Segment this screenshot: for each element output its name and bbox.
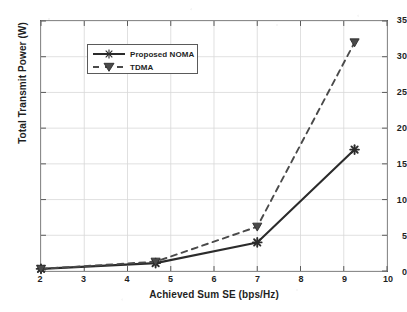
data-point-marker (350, 145, 359, 154)
y-tick-label-35: 35 (373, 15, 407, 25)
y-axis-title: Total Transmit Power (W) (17, 3, 28, 163)
y-tick-label-0: 0 (373, 267, 407, 277)
x-tick-label-3: 3 (81, 274, 86, 284)
y-tick-label-15: 15 (373, 159, 407, 169)
chart-figure: Total Transmit Power (W) Proposed NOMA (0, 0, 407, 312)
x-tick-label-8: 8 (298, 274, 303, 284)
series-line-proposed-noma (41, 150, 355, 269)
data-point-marker (350, 39, 359, 47)
legend-swatch-solid-star-icon (92, 48, 126, 60)
y-tick-label-30: 30 (373, 51, 407, 61)
x-tick-label-2: 2 (37, 274, 42, 284)
y-tick-label-20: 20 (373, 123, 407, 133)
x-tick-label-9: 9 (342, 274, 347, 284)
data-point-marker (253, 238, 262, 247)
x-tick-label-6: 6 (211, 274, 216, 284)
y-tick-label-25: 25 (373, 87, 407, 97)
legend-item-proposed-noma: Proposed NOMA (92, 48, 193, 60)
legend-item-tdma: TDMA (92, 61, 193, 73)
y-axis-title-container: Total Transmit Power (W) (17, 3, 31, 163)
series-line-tdma (41, 42, 355, 268)
x-tick-label-5: 5 (168, 274, 173, 284)
chart-legend: Proposed NOMA TDMA (87, 44, 198, 74)
y-tick-label-10: 10 (373, 195, 407, 205)
x-axis-title: Achieved Sum SE (bps/Hz) (40, 289, 388, 300)
x-tick-label-4: 4 (124, 274, 129, 284)
legend-label-tdma: TDMA (130, 63, 153, 72)
legend-swatch-dashed-triangle-icon (92, 61, 126, 73)
y-tick-label-5: 5 (373, 231, 407, 241)
x-tick-label-7: 7 (255, 274, 260, 284)
legend-label-proposed-noma: Proposed NOMA (130, 50, 194, 59)
plot-area: Proposed NOMA TDMA (40, 20, 388, 272)
